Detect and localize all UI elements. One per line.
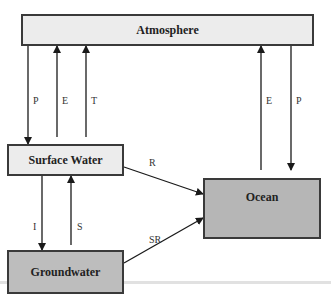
- water-cycle-diagram: Atmosphere Surface Water Groundwater Oce…: [0, 0, 331, 298]
- atmosphere-label: Atmosphere: [136, 23, 198, 38]
- edge-label-sr: SR: [149, 234, 161, 245]
- edge-label-i: I: [33, 221, 36, 232]
- surface-water-label: Surface Water: [28, 153, 102, 168]
- edge-label-r: R: [149, 157, 156, 168]
- arrow-r-surface-ocean: [124, 167, 203, 194]
- edge-label-t: T: [91, 95, 97, 106]
- arrow-sr-ground-ocean: [124, 218, 203, 263]
- ocean-box: Ocean: [203, 178, 321, 239]
- edge-label-s: S: [77, 221, 83, 232]
- groundwater-box: Groundwater: [7, 250, 124, 294]
- surface-water-box: Surface Water: [7, 144, 124, 176]
- atmosphere-box: Atmosphere: [21, 14, 314, 46]
- edge-label-p-left: P: [33, 95, 39, 106]
- groundwater-label: Groundwater: [31, 265, 101, 280]
- edge-label-e-left: E: [62, 95, 68, 106]
- ocean-label: Ocean: [246, 190, 279, 205]
- edge-label-p-right: P: [296, 95, 302, 106]
- edge-label-e-right: E: [266, 95, 272, 106]
